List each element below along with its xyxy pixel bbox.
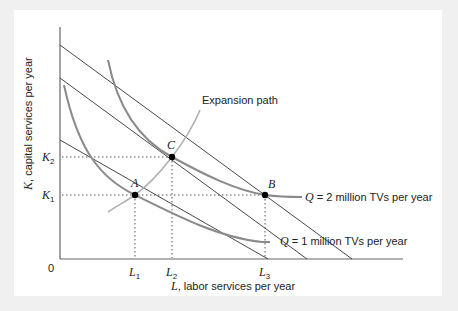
expansion-path-label: Expansion path [202,94,278,106]
point-a [132,192,138,198]
expansion-path [108,110,200,212]
x-axis-label: L, labor services per year [170,279,295,293]
tick-k1: K1 [41,188,55,204]
tick-k2: K2 [41,150,55,166]
point-a-label: A [130,176,139,190]
point-b-label: B [268,177,276,191]
tick-l1: L1 [128,265,141,281]
expansion-path-diagram: A C B Expansion path Q = 2 million TVs p… [0,0,458,311]
isoquant-q1-label: Q = 1 million TVs per year [280,234,408,248]
tick-l3: L3 [258,265,271,281]
isoquant-q2-label: Q = 2 million TVs per year [305,190,433,204]
point-c-label: C [167,138,176,152]
point-c [169,154,175,160]
y-axis-label: K, capital services per year [21,57,35,191]
point-b [262,192,268,198]
origin-label: 0 [48,262,54,274]
